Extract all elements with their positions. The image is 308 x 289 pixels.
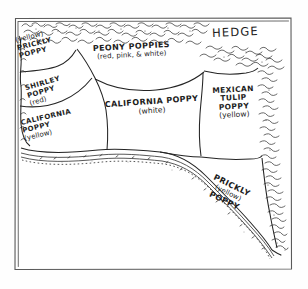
label-hedge: HEDGE	[212, 25, 259, 40]
label-mexican-tulip-poppy: MEXICAN TULIP POPPY (yellow)	[212, 85, 255, 121]
hedge-text: HEDGE	[212, 25, 259, 40]
garden-plan-sketch: HEDGE (yellow) PRICKLY POPPY SHIRLEY POP…	[0, 0, 308, 289]
